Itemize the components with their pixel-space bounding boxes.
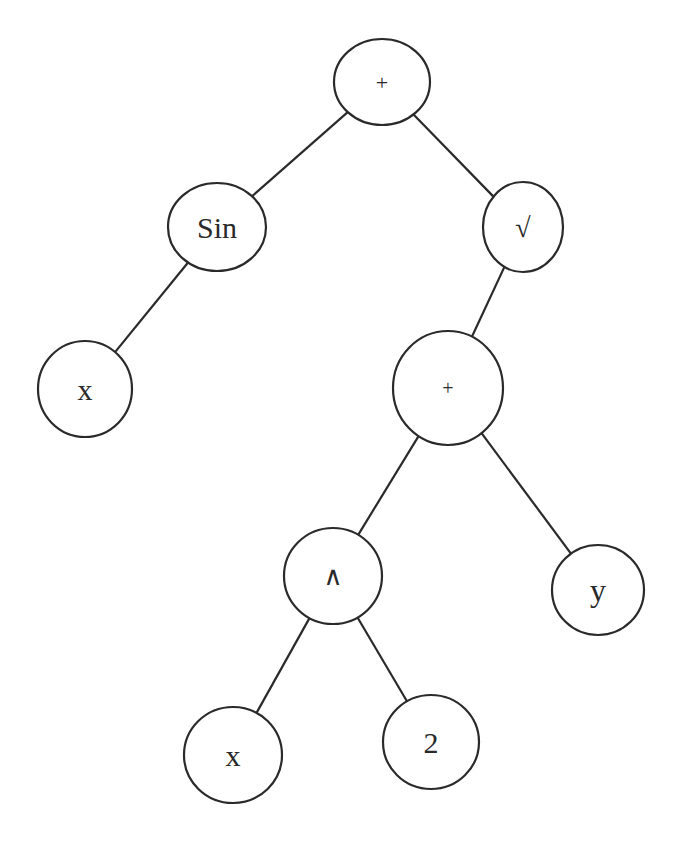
node-two: 2 — [383, 695, 479, 789]
edge-mid_plus-y — [482, 433, 571, 553]
edge-root_plus-sqrt — [414, 114, 494, 196]
node-label: x — [78, 373, 93, 406]
node-label: x — [226, 739, 241, 772]
node-label: ∧ — [323, 562, 342, 591]
nodes-layer: +Sin√x+∧yx2 — [38, 39, 644, 803]
node-label: + — [442, 377, 453, 399]
edge-sin-x1 — [115, 263, 188, 353]
node-label: y — [590, 572, 606, 608]
node-label: √ — [515, 212, 531, 243]
node-label: Sin — [197, 211, 237, 244]
node-x2: x — [184, 707, 282, 803]
node-root_plus: + — [334, 39, 430, 125]
node-sin: Sin — [168, 183, 266, 271]
edge-mid_plus-pow — [358, 436, 418, 535]
edge-sqrt-mid_plus — [472, 267, 505, 337]
edge-pow-x2 — [257, 618, 310, 713]
expression-tree-diagram: +Sin√x+∧yx2 — [0, 0, 687, 847]
node-pow: ∧ — [284, 528, 382, 624]
node-x1: x — [38, 341, 132, 437]
node-y: y — [552, 545, 644, 635]
node-label: 2 — [424, 726, 439, 759]
edge-root_plus-sin — [252, 112, 348, 196]
node-mid_plus: + — [393, 331, 503, 445]
node-sqrt: √ — [483, 182, 563, 272]
node-label: + — [376, 70, 388, 95]
edge-pow-two — [358, 618, 407, 702]
